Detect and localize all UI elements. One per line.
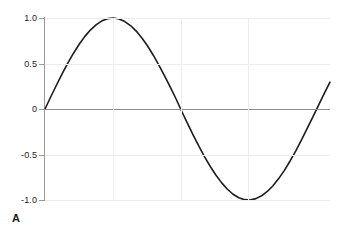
gridline-horizontal xyxy=(45,200,330,201)
panel-label: A xyxy=(12,212,20,224)
plot-area: 1.00.50-0.5-1.0 xyxy=(45,18,330,200)
y-axis-tick-label: -0.5 xyxy=(21,150,37,160)
y-axis-tick-label: 0 xyxy=(32,104,37,114)
y-axis-tick-mark xyxy=(39,18,45,19)
gridline-horizontal xyxy=(45,64,330,65)
y-axis-tick-mark xyxy=(39,200,45,201)
gridline-horizontal xyxy=(45,109,330,110)
gridline-horizontal xyxy=(45,18,330,19)
y-axis-tick-label: 0.5 xyxy=(24,59,37,69)
gridline-horizontal xyxy=(45,155,330,156)
y-axis-tick-label: 1.0 xyxy=(24,13,37,23)
gridline-vertical xyxy=(248,18,249,200)
y-axis-tick-mark xyxy=(39,155,45,156)
figure-panel: 1.00.50-0.5-1.0 A xyxy=(0,0,348,236)
gridline-vertical xyxy=(113,18,114,200)
gridline-vertical xyxy=(181,18,182,200)
y-axis-tick-mark xyxy=(39,109,45,110)
y-axis-tick-label: -1.0 xyxy=(21,195,37,205)
y-axis-tick-mark xyxy=(39,64,45,65)
